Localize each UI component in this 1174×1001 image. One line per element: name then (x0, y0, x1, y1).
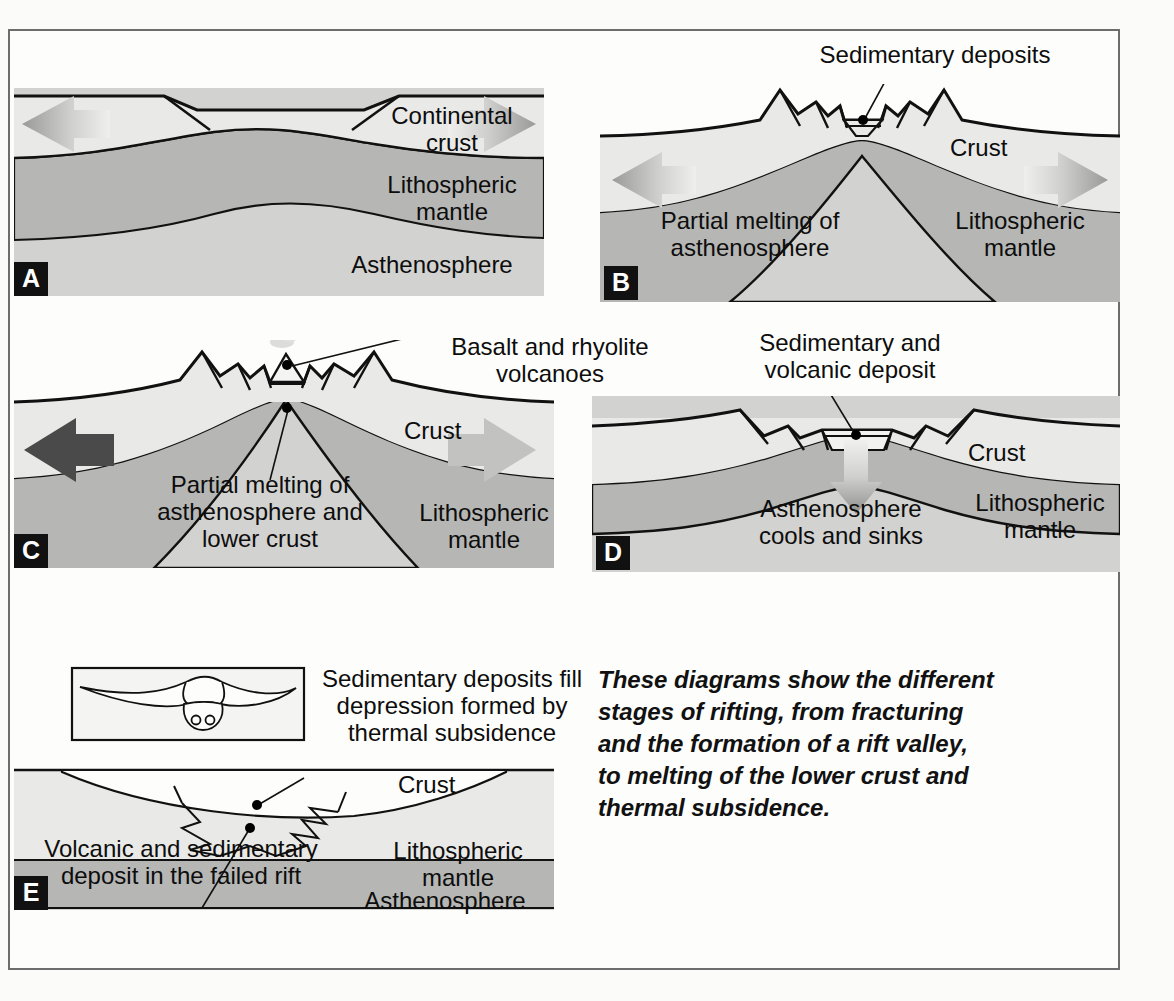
panel-letter-a: A (14, 262, 48, 296)
eruption-plume-icon (270, 340, 297, 348)
pointer-dot-deposit-d (851, 430, 861, 440)
figure-caption: These diagrams show the different stages… (598, 664, 1028, 824)
label-continental-crust: Continental crust (352, 103, 552, 157)
label-basalt-rhyolite-c: Basalt and rhyolite volcanoes (400, 334, 700, 388)
label-lithospheric-mantle-e: Lithospheric mantle (368, 838, 548, 892)
label-crust-b: Crust (950, 135, 1007, 162)
label-lithospheric-mantle-d: Lithospheric mantle (950, 490, 1130, 544)
label-sed-volcanic-deposit-d: Sedimentary and volcanic deposit (700, 330, 1000, 384)
panel-letter-d: D (596, 536, 630, 570)
panel-letter-c: C (14, 534, 48, 568)
label-sedimentary-deposits-b: Sedimentary deposits (770, 42, 1100, 69)
failed-rift-map-inset (72, 668, 304, 740)
label-lithospheric-mantle-c: Lithospheric mantle (386, 500, 582, 554)
figure-page: A Continental crust Lithospheric mantle … (0, 0, 1174, 1001)
label-sed-deposits-fill-e: Sedimentary deposits fill depression for… (292, 666, 612, 747)
label-crust-c: Crust (404, 418, 461, 445)
label-asthenosphere-cools-d: Asthenosphere cools and sinks (716, 496, 966, 550)
label-asthenosphere-a: Asthenosphere (312, 252, 552, 279)
pointer-dot-volcano-c (282, 360, 292, 370)
label-partial-melting-b: Partial melting of asthenosphere (600, 208, 900, 262)
label-volcanic-sed-deposit-e: Volcanic and sedimentary deposit in the … (16, 836, 346, 890)
panel-letter-b: B (604, 266, 638, 300)
panel-b: B (600, 84, 1120, 302)
label-crust-d: Crust (968, 440, 1025, 467)
pointer-dot-failed-rift-e (245, 823, 255, 833)
label-partial-melting-c: Partial melting of asthenosphere and low… (110, 472, 410, 553)
pointer-dot-melting-c (282, 403, 292, 413)
label-lithospheric-mantle-a: Lithospheric mantle (352, 172, 552, 226)
pointer-dot-sediment-b (858, 115, 868, 125)
pointer-dot-basin-e (252, 800, 262, 810)
label-lithospheric-mantle-b: Lithospheric mantle (920, 208, 1120, 262)
label-asthenosphere-e: Asthenosphere (330, 888, 560, 915)
label-crust-e: Crust (398, 772, 455, 799)
